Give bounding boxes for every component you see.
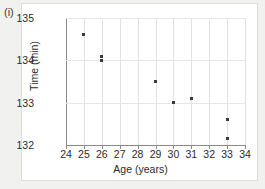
gridline-vertical xyxy=(227,18,228,145)
data-point xyxy=(100,55,103,58)
gridline-vertical xyxy=(191,18,192,145)
data-point xyxy=(226,118,229,121)
gridline-horizontal xyxy=(66,103,245,104)
y-axis-tick-label: 133 xyxy=(8,98,34,108)
y-axis-tick-label: 135 xyxy=(8,13,34,23)
figure-container: (i) Time (min) Age (years) 1321331341352… xyxy=(0,0,265,189)
data-point xyxy=(226,137,229,140)
gridline-vertical xyxy=(120,18,121,145)
gridline-horizontal xyxy=(66,18,245,19)
gridline-vertical xyxy=(102,18,103,145)
gridline-horizontal xyxy=(66,60,245,61)
plot-area xyxy=(66,18,245,145)
gridline-vertical xyxy=(245,18,246,145)
y-axis-tick-label: 134 xyxy=(8,55,34,65)
gridline-vertical xyxy=(173,18,174,145)
y-axis-tick-label: 132 xyxy=(8,140,34,150)
data-point xyxy=(190,97,193,100)
x-axis-tick-label: 34 xyxy=(235,149,255,160)
data-point xyxy=(82,33,85,36)
data-point xyxy=(100,59,103,62)
gridline-vertical xyxy=(209,18,210,145)
gridline-vertical xyxy=(138,18,139,145)
data-point xyxy=(154,80,157,83)
chart-panel: Time (min) Age (years) 13213313413524252… xyxy=(21,3,258,181)
gridline-vertical xyxy=(84,18,85,145)
x-axis-title: Age (years) xyxy=(22,163,259,175)
data-point xyxy=(172,101,175,104)
